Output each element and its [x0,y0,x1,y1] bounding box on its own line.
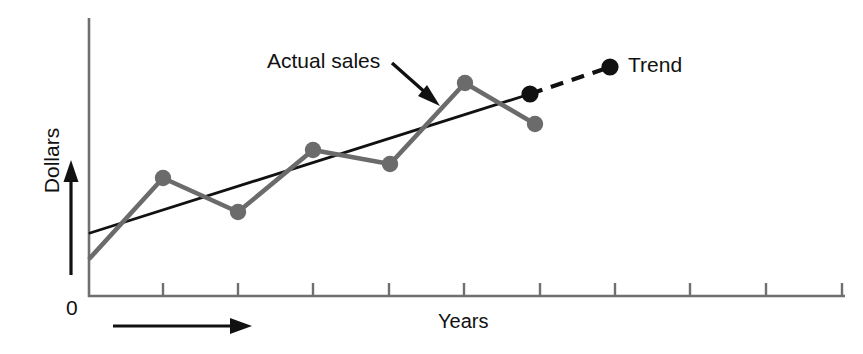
trend-markers [521,58,618,102]
data-point [155,170,171,186]
annotation-label-trend: Trend [628,54,682,75]
data-point [382,156,398,172]
y-axis-label: Dollars [41,106,62,216]
annotation-label-actual-sales: Actual sales [267,50,380,71]
origin-label: 0 [66,297,78,318]
sales-trend-chart: Actual sales Trend Years Dollars 0 [0,0,863,354]
data-point [305,142,321,158]
actual-sales-line [90,83,535,258]
data-point [457,75,473,91]
data-point [230,204,246,220]
x-axis-ticks [163,283,842,296]
actual-sales-callout-arrow [392,63,440,106]
x-axis-direction-arrow [113,318,252,334]
axes-group [88,18,845,297]
data-point [527,116,543,132]
trend-line-solid [90,94,530,233]
y-axis-direction-arrow [64,160,79,275]
chart-canvas [0,0,863,354]
trend-line-dashed [530,67,610,94]
x-axis-label: Years [438,311,488,331]
trend-data-point [521,85,538,102]
trend-data-point [601,58,618,75]
